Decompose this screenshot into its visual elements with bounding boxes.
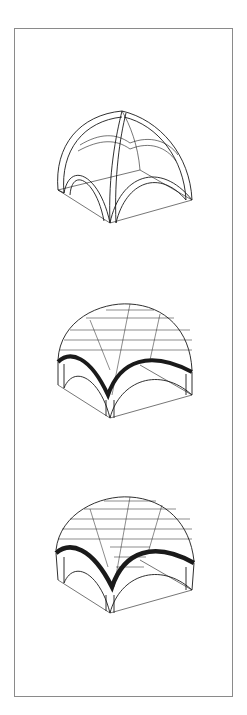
vault-partial-infill-drawing — [50, 300, 200, 430]
vault-complete-infill-drawing — [50, 495, 200, 625]
vault-ribs-drawing — [50, 105, 200, 235]
